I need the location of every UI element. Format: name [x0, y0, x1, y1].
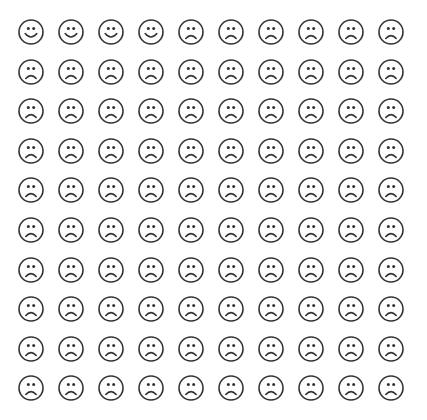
face-icon-grid [0, 0, 427, 420]
frowning-face-icon [377, 256, 405, 284]
frowning-face-icon [217, 97, 245, 125]
frowning-face-icon [97, 335, 125, 363]
frowning-face-icon [337, 97, 365, 125]
frowning-face-icon [217, 137, 245, 165]
frowning-face-icon [257, 216, 285, 244]
frowning-face-icon [137, 176, 165, 204]
frowning-face-icon [177, 58, 205, 86]
frowning-face-icon [217, 176, 245, 204]
frowning-face-icon [377, 176, 405, 204]
frowning-face-icon [177, 256, 205, 284]
frowning-face-icon [97, 216, 125, 244]
frowning-face-icon [57, 335, 85, 363]
frowning-face-icon [177, 176, 205, 204]
smiling-face-icon [57, 18, 85, 46]
frowning-face-icon [377, 216, 405, 244]
frowning-face-icon [17, 374, 45, 402]
frowning-face-icon [217, 295, 245, 323]
frowning-face-icon [137, 256, 165, 284]
frowning-face-icon [377, 335, 405, 363]
frowning-face-icon [97, 295, 125, 323]
frowning-face-icon [297, 97, 325, 125]
frowning-face-icon [17, 256, 45, 284]
frowning-face-icon [17, 176, 45, 204]
frowning-face-icon [257, 18, 285, 46]
frowning-face-icon [297, 137, 325, 165]
frowning-face-icon [297, 295, 325, 323]
frowning-face-icon [57, 374, 85, 402]
frowning-face-icon [97, 374, 125, 402]
frowning-face-icon [137, 58, 165, 86]
frowning-face-icon [337, 374, 365, 402]
frowning-face-icon [57, 256, 85, 284]
frowning-face-icon [377, 58, 405, 86]
frowning-face-icon [17, 137, 45, 165]
frowning-face-icon [97, 176, 125, 204]
frowning-face-icon [257, 374, 285, 402]
frowning-face-icon [337, 216, 365, 244]
frowning-face-icon [57, 58, 85, 86]
frowning-face-icon [57, 216, 85, 244]
frowning-face-icon [337, 295, 365, 323]
frowning-face-icon [337, 137, 365, 165]
frowning-face-icon [257, 97, 285, 125]
frowning-face-icon [337, 58, 365, 86]
frowning-face-icon [137, 374, 165, 402]
frowning-face-icon [177, 374, 205, 402]
frowning-face-icon [137, 295, 165, 323]
frowning-face-icon [257, 137, 285, 165]
frowning-face-icon [217, 216, 245, 244]
frowning-face-icon [17, 216, 45, 244]
frowning-face-icon [137, 97, 165, 125]
smiling-face-icon [137, 18, 165, 46]
frowning-face-icon [297, 256, 325, 284]
frowning-face-icon [297, 58, 325, 86]
frowning-face-icon [297, 18, 325, 46]
frowning-face-icon [97, 58, 125, 86]
frowning-face-icon [17, 335, 45, 363]
frowning-face-icon [137, 216, 165, 244]
frowning-face-icon [177, 18, 205, 46]
frowning-face-icon [177, 295, 205, 323]
frowning-face-icon [177, 335, 205, 363]
frowning-face-icon [337, 176, 365, 204]
frowning-face-icon [137, 137, 165, 165]
frowning-face-icon [337, 18, 365, 46]
frowning-face-icon [137, 335, 165, 363]
frowning-face-icon [97, 256, 125, 284]
frowning-face-icon [217, 374, 245, 402]
frowning-face-icon [337, 335, 365, 363]
frowning-face-icon [17, 97, 45, 125]
frowning-face-icon [177, 137, 205, 165]
frowning-face-icon [377, 97, 405, 125]
frowning-face-icon [257, 176, 285, 204]
frowning-face-icon [97, 137, 125, 165]
frowning-face-icon [257, 256, 285, 284]
frowning-face-icon [257, 295, 285, 323]
frowning-face-icon [377, 295, 405, 323]
frowning-face-icon [217, 58, 245, 86]
frowning-face-icon [17, 295, 45, 323]
frowning-face-icon [57, 97, 85, 125]
frowning-face-icon [297, 176, 325, 204]
frowning-face-icon [217, 256, 245, 284]
frowning-face-icon [377, 137, 405, 165]
frowning-face-icon [297, 374, 325, 402]
frowning-face-icon [57, 137, 85, 165]
frowning-face-icon [377, 18, 405, 46]
smiling-face-icon [97, 18, 125, 46]
frowning-face-icon [377, 374, 405, 402]
frowning-face-icon [217, 335, 245, 363]
frowning-face-icon [297, 216, 325, 244]
smiling-face-icon [17, 18, 45, 46]
frowning-face-icon [257, 335, 285, 363]
frowning-face-icon [17, 58, 45, 86]
frowning-face-icon [97, 97, 125, 125]
frowning-face-icon [297, 335, 325, 363]
frowning-face-icon [57, 176, 85, 204]
frowning-face-icon [177, 97, 205, 125]
frowning-face-icon [257, 58, 285, 86]
frowning-face-icon [177, 216, 205, 244]
frowning-face-icon [337, 256, 365, 284]
frowning-face-icon [57, 295, 85, 323]
